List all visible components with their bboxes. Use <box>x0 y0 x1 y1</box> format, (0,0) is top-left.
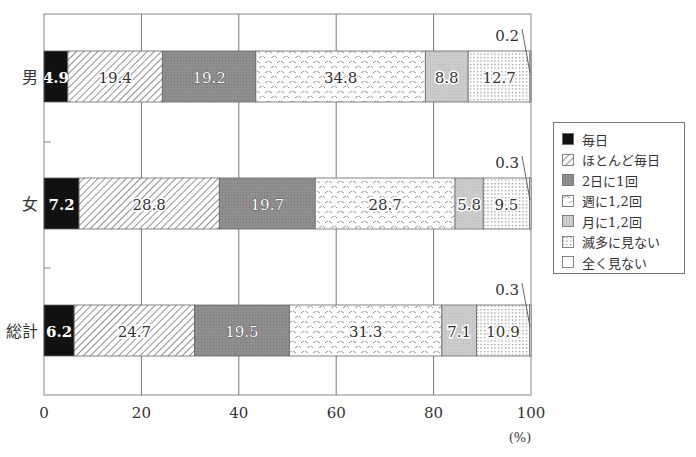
x-axis-tick-labels: 020406080100 <box>39 404 545 422</box>
legend: 毎日ほとんど毎日2日に1回週に1,2回月に1,2回滅多に見ない全く見ない <box>553 122 685 274</box>
bar-value-label: 5.8 <box>457 196 481 214</box>
legend-swatch-icon <box>562 154 574 166</box>
legend-item: 月に1,2回 <box>562 211 684 232</box>
bar-value-label: 12.7 <box>482 69 515 87</box>
bar-value-label: 6.2 <box>46 323 72 341</box>
x-tick-label: 80 <box>424 404 443 422</box>
bar-value-label: 19.5 <box>225 323 258 341</box>
legend-item: 全く見ない <box>562 252 684 273</box>
legend-swatch-icon <box>562 174 574 186</box>
bar-value-label: 19.2 <box>192 69 225 87</box>
bar-value-label: 28.8 <box>132 196 165 214</box>
legend-label: 滅多に見ない <box>582 232 660 251</box>
legend-item: 2日に1回 <box>562 170 684 191</box>
bar-value-label: 24.7 <box>118 323 151 341</box>
category-label: 総計 <box>6 322 38 341</box>
category-labels: 男女総計 <box>6 68 38 341</box>
bar-value-label: 10.9 <box>486 323 519 341</box>
legend-label: 月に1,2回 <box>582 212 642 231</box>
legend-label: 週に1,2回 <box>582 191 642 210</box>
bar-value-label: 31.3 <box>349 323 382 341</box>
x-tick-label: 100 <box>517 404 546 422</box>
legend-swatch-icon <box>562 256 574 268</box>
small-value-annotation: 0.3 <box>495 281 519 299</box>
small-value-annotation: 0.3 <box>495 154 519 172</box>
legend-label: 毎日 <box>582 130 608 149</box>
bar-value-label: 19.7 <box>251 196 284 214</box>
x-tick-label: 60 <box>327 404 346 422</box>
bar-value-label: 7.1 <box>447 323 471 341</box>
x-tick-label: 20 <box>132 404 151 422</box>
bar-value-label: 4.9 <box>43 69 69 87</box>
bar-value-label: 8.8 <box>435 69 459 87</box>
small-value-annotation: 0.2 <box>495 27 519 45</box>
bar-value-label: 34.8 <box>324 69 357 87</box>
bar-segment <box>530 51 531 102</box>
x-tick-label: 0 <box>39 404 49 422</box>
x-tick-label: 40 <box>229 404 248 422</box>
legend-swatch-icon <box>562 195 574 207</box>
legend-label: 2日に1回 <box>582 171 638 190</box>
bar-value-label: 7.2 <box>48 196 74 214</box>
legend-swatch-icon <box>562 133 574 145</box>
legend-swatch-icon <box>562 236 574 248</box>
legend-label: ほとんど毎日 <box>582 150 660 169</box>
bar-segment <box>530 305 531 356</box>
category-label: 男 <box>22 68 38 87</box>
bar-segment <box>530 178 531 229</box>
legend-item: ほとんど毎日 <box>562 150 684 171</box>
x-axis-unit: (%) <box>509 430 532 445</box>
legend-item: 毎日 <box>562 129 684 150</box>
bar-value-label: 19.4 <box>98 69 131 87</box>
figure-caption <box>190 448 490 457</box>
category-label: 女 <box>22 195 38 214</box>
legend-swatch-icon <box>562 215 574 227</box>
legend-item: 滅多に見ない <box>562 232 684 253</box>
bar-value-label: 28.7 <box>368 196 401 214</box>
bar-value-label: 9.5 <box>494 196 518 214</box>
legend-item: 週に1,2回 <box>562 191 684 212</box>
legend-label: 全く見ない <box>582 253 647 272</box>
